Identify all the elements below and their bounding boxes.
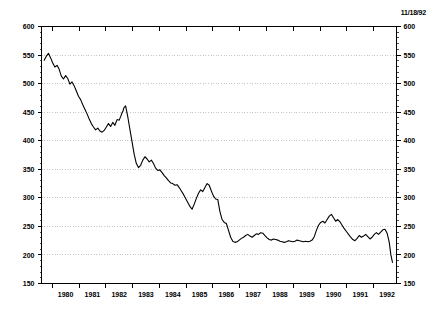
svg-text:1982: 1982	[111, 291, 127, 298]
svg-text:150: 150	[404, 280, 416, 287]
svg-text:1991: 1991	[353, 291, 369, 298]
y-axis-labels-right: 150200250300350400450500550600	[404, 23, 416, 287]
svg-text:400: 400	[404, 137, 416, 144]
svg-text:350: 350	[404, 166, 416, 173]
svg-text:1992: 1992	[379, 291, 395, 298]
svg-text:400: 400	[23, 137, 35, 144]
svg-text:300: 300	[23, 194, 35, 201]
svg-text:1986: 1986	[219, 291, 235, 298]
svg-text:1981: 1981	[85, 291, 101, 298]
x-axis-ticks	[52, 27, 374, 288]
x-axis-labels: 1980198119821983198419851986198719881989…	[58, 291, 395, 298]
svg-text:500: 500	[23, 80, 35, 87]
svg-text:1989: 1989	[299, 291, 315, 298]
svg-text:500: 500	[404, 80, 416, 87]
svg-text:300: 300	[404, 194, 416, 201]
svg-text:550: 550	[23, 52, 35, 59]
svg-text:1985: 1985	[192, 291, 208, 298]
grid-lines	[42, 55, 397, 255]
svg-text:150: 150	[23, 280, 35, 287]
svg-text:1988: 1988	[272, 291, 288, 298]
svg-text:1990: 1990	[326, 291, 342, 298]
svg-text:450: 450	[404, 109, 416, 116]
svg-text:250: 250	[23, 223, 35, 230]
y-axis-labels-left: 150200250300350400450500550600	[23, 23, 35, 287]
svg-text:1983: 1983	[138, 291, 154, 298]
plot-frame	[42, 27, 397, 284]
svg-text:350: 350	[23, 166, 35, 173]
svg-text:250: 250	[404, 223, 416, 230]
y-axis-ticks-left	[38, 27, 42, 284]
svg-text:550: 550	[404, 52, 416, 59]
svg-text:600: 600	[23, 23, 35, 30]
svg-text:200: 200	[404, 252, 416, 259]
data-series-line	[44, 53, 392, 262]
chart-container: 11/18/92 150200250300350400450500550600 …	[0, 0, 435, 315]
y-axis-ticks-right	[397, 27, 401, 284]
svg-text:1984: 1984	[165, 291, 181, 298]
svg-text:600: 600	[404, 23, 416, 30]
svg-text:200: 200	[23, 252, 35, 259]
svg-text:1987: 1987	[245, 291, 261, 298]
svg-text:1980: 1980	[58, 291, 74, 298]
svg-text:450: 450	[23, 109, 35, 116]
line-chart-plot: 150200250300350400450500550600 150200250…	[0, 0, 435, 315]
